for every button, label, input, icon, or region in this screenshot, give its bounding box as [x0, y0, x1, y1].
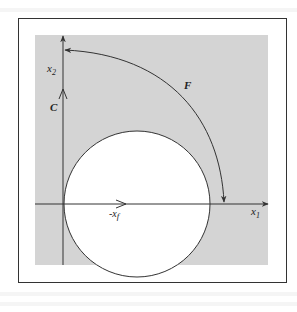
phase-plane-diagram: x2 C F -xf x1: [0, 0, 297, 312]
label-F: F: [183, 79, 192, 91]
label-C: C: [50, 101, 58, 113]
